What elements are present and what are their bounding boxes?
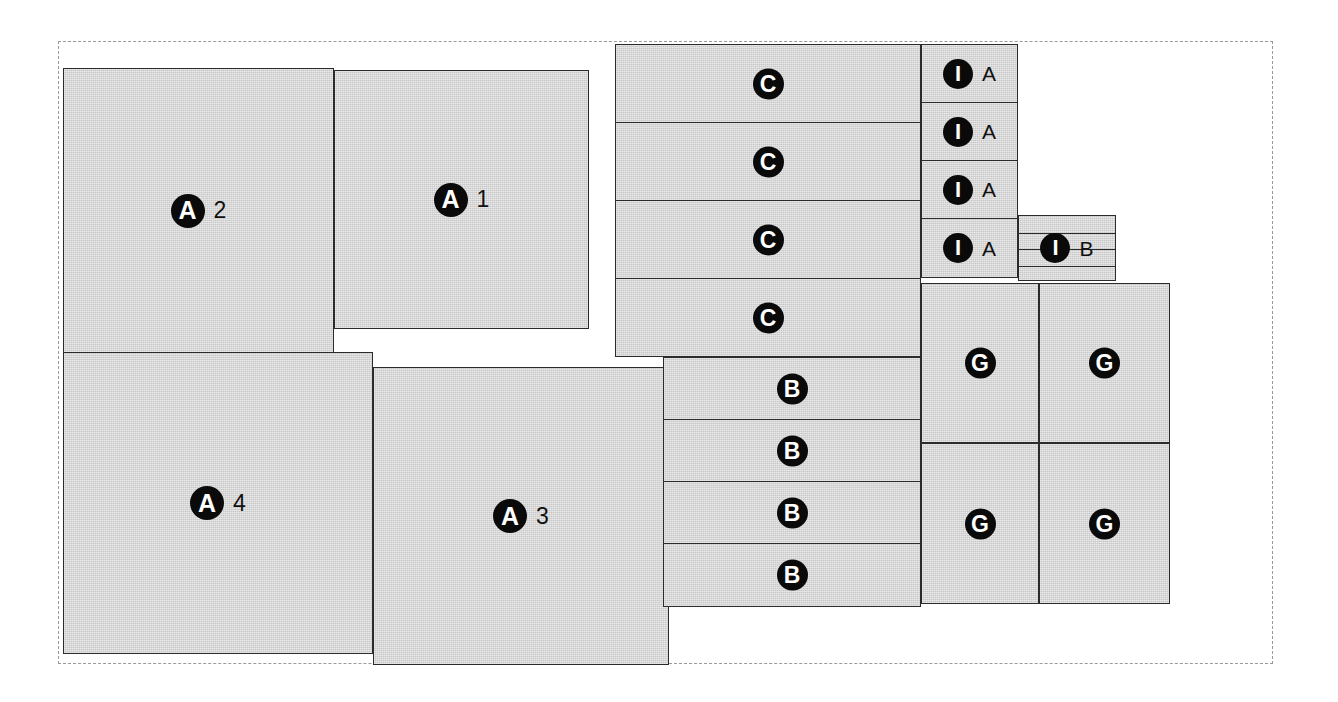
stall-type-badge-icon: A [171,194,205,228]
stall-label-group: G [922,348,1038,379]
stall-type-badge-icon: I [1040,233,1070,263]
stall-type-badge-icon: G [965,348,996,379]
stall-block-g4[interactable]: G [1039,443,1170,604]
stall-label-group: IA [922,233,1017,263]
stall-block-g2[interactable]: G [1039,283,1170,443]
stall-label-group: G [922,508,1038,539]
stall-type-badge-icon: C [753,224,784,255]
stall-type-badge-icon: C [753,146,784,177]
stall-type-badge-icon: C [753,302,784,333]
stall-type-badge-icon: B [777,560,808,591]
stripe-divider [1019,233,1115,234]
stall-block-c4[interactable]: C [615,278,921,357]
stall-label-group: A4 [64,486,372,520]
stall-type-badge-icon: I [943,233,973,263]
stall-type-badge-icon: I [943,117,973,147]
stall-type-badge-icon: G [1089,348,1120,379]
stall-type-badge-icon: A [190,486,224,520]
stall-label-group: B [664,373,920,404]
stall-type-badge-icon: I [943,59,973,89]
stall-label-group: IA [922,175,1017,205]
stall-block-ia3[interactable]: IA [921,160,1018,219]
stall-type-badge-icon: I [943,175,973,205]
stall-block-ia4[interactable]: IA [921,218,1018,278]
stall-label-group: C [616,146,920,177]
stall-label-group: C [616,224,920,255]
stall-block-a2[interactable]: A2 [63,68,334,353]
stall-block-b2[interactable]: B [663,419,921,482]
stall-label-group: A3 [374,499,668,533]
stall-suffix-label: A [982,63,996,84]
stall-label-group: B [664,560,920,591]
stall-suffix-label: 1 [477,188,490,211]
stall-type-badge-icon: G [965,508,996,539]
stall-block-a4[interactable]: A4 [63,352,373,654]
stall-block-b3[interactable]: B [663,481,921,544]
stall-suffix-label: A [982,179,996,200]
stall-label-group: C [616,68,920,99]
stall-type-badge-icon: B [777,435,808,466]
stall-label-group: B [664,435,920,466]
stall-suffix-label: B [1079,238,1093,259]
stall-type-badge-icon: A [434,183,468,217]
stall-suffix-label: 2 [214,199,227,222]
stall-type-badge-icon: B [777,373,808,404]
stall-block-ib1[interactable]: IB [1018,215,1116,281]
stall-block-b4[interactable]: B [663,543,921,607]
stall-suffix-label: A [982,121,996,142]
stall-label-group: G [1040,348,1169,379]
stall-label-group: A2 [64,194,333,228]
stall-label-group: IB [1019,233,1115,263]
stall-block-c2[interactable]: C [615,122,921,201]
stripe-divider [1019,249,1115,250]
stall-suffix-label: 4 [233,492,246,515]
stripe-divider [1019,266,1115,267]
stall-block-c3[interactable]: C [615,200,921,279]
stall-block-b1[interactable]: B [663,357,921,420]
stall-block-a3[interactable]: A3 [373,367,669,665]
stall-type-badge-icon: G [1089,508,1120,539]
diagram-canvas: A2A1A4A3CCCCBBBBIAIAIAIAIBGGGG [0,0,1338,702]
stall-block-g1[interactable]: G [921,283,1039,443]
stall-type-badge-icon: A [493,499,527,533]
stall-type-badge-icon: C [753,68,784,99]
stall-label-group: IA [922,59,1017,89]
stall-label-group: IA [922,117,1017,147]
stall-label-group: G [1040,508,1169,539]
stall-suffix-label: A [982,238,996,259]
stall-block-ia1[interactable]: IA [921,44,1018,103]
stall-block-ia2[interactable]: IA [921,102,1018,161]
stall-block-a1[interactable]: A1 [334,70,589,329]
stall-suffix-label: 3 [536,505,549,528]
stall-block-c1[interactable]: C [615,44,921,123]
stall-block-g3[interactable]: G [921,443,1039,604]
stall-label-group: C [616,302,920,333]
stall-label-group: A1 [335,183,588,217]
stall-type-badge-icon: B [777,497,808,528]
stall-label-group: B [664,497,920,528]
